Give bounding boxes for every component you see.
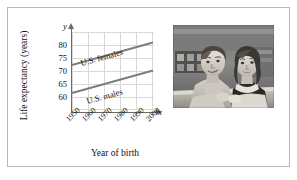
y-tick-label: 80 bbox=[47, 41, 67, 50]
gridline-horizontal bbox=[72, 84, 154, 85]
y-axis-title-text: Life expectancy (years) bbox=[19, 31, 29, 121]
x-axis-title: Year of birth bbox=[60, 148, 170, 158]
photograph bbox=[173, 25, 274, 108]
series-label-us-females: U.S. females bbox=[79, 47, 124, 68]
x-axis-ticks: 1950 1960 1970 1980 1990 2000 bbox=[60, 112, 170, 152]
y-tick-label: 60 bbox=[47, 93, 67, 102]
y-axis-arrow-icon bbox=[68, 23, 74, 29]
figure-panel: Life expectancy (years) 80 75 70 65 60 y… bbox=[7, 7, 290, 167]
y-axis-title: Life expectancy (years) bbox=[19, 29, 30, 121]
y-tick-label: 65 bbox=[47, 80, 67, 89]
y-axis-variable-label: y bbox=[63, 21, 67, 31]
gridline-horizontal bbox=[72, 32, 154, 33]
line-chart: Life expectancy (years) 80 75 70 65 60 y… bbox=[8, 8, 168, 168]
photograph-image bbox=[173, 25, 274, 108]
plot-area: U.S. females U.S. males bbox=[72, 32, 154, 109]
y-tick-label: 75 bbox=[47, 54, 67, 63]
y-tick-label: 70 bbox=[47, 67, 67, 76]
